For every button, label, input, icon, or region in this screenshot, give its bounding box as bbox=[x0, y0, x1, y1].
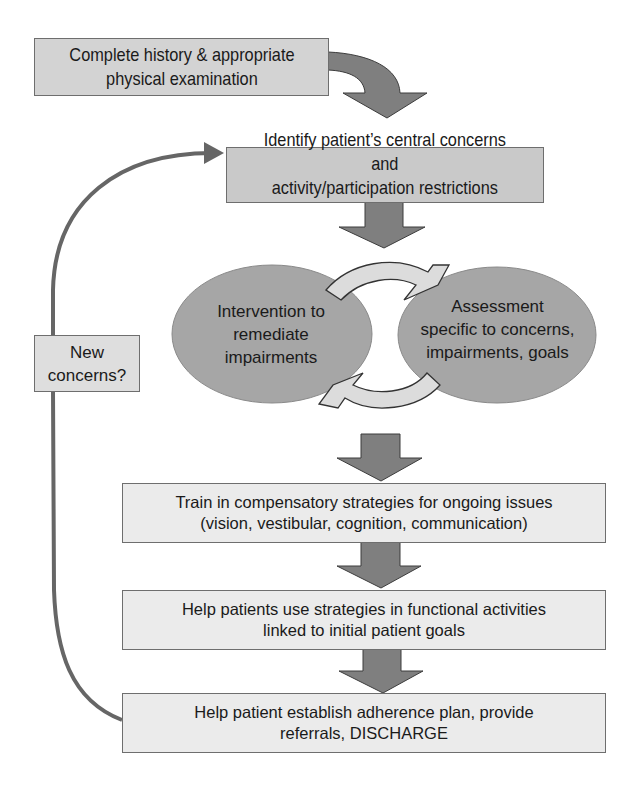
identify-concerns-box: Identify patient’s central concerns and … bbox=[226, 147, 544, 203]
discharge-box: Help patient establish adherence plan, p… bbox=[122, 693, 606, 753]
train-compensatory-line-1: Train in compensatory strategies for ong… bbox=[175, 492, 552, 513]
identify-concerns-line-2: and bbox=[264, 152, 506, 176]
discharge-line-1: Help patient establish adherence plan, p… bbox=[194, 702, 533, 723]
identify-concerns-line-1: Identify patient’s central concerns bbox=[264, 128, 506, 152]
train-compensatory-box: Train in compensatory strategies for ong… bbox=[122, 483, 606, 543]
diagram-canvas bbox=[0, 0, 643, 790]
train-compensatory-line-2: (vision, vestibular, cognition, communic… bbox=[200, 513, 527, 534]
feedback-arrow-head bbox=[204, 142, 224, 164]
assessment-line-3: impairments, goals bbox=[400, 341, 595, 364]
discharge-line-2: referrals, DISCHARGE bbox=[280, 723, 448, 744]
identify-concerns-line-3: activity/participation restrictions bbox=[264, 176, 506, 200]
assessment-line-2: specific to concerns, bbox=[400, 318, 595, 341]
down-arrow-4 bbox=[339, 649, 423, 693]
intervention-line-3: impairments bbox=[196, 346, 346, 369]
new-concerns-line-1: New bbox=[70, 341, 104, 364]
curved-block-arrow bbox=[328, 52, 427, 118]
intervention-line-1: Intervention to bbox=[196, 300, 346, 323]
down-arrow-2 bbox=[337, 434, 422, 481]
history-exam-box: Complete history & appropriate physical … bbox=[34, 38, 329, 96]
new-concerns-box: New concerns? bbox=[34, 335, 140, 392]
functional-activities-box: Help patients use strategies in function… bbox=[122, 590, 606, 650]
assessment-line-1: Assessment bbox=[400, 295, 595, 318]
functional-activities-line-1: Help patients use strategies in function… bbox=[182, 599, 546, 620]
intervention-label: Intervention to remediate impairments bbox=[196, 300, 346, 369]
down-arrow-1 bbox=[339, 202, 425, 248]
assessment-label: Assessment specific to concerns, impairm… bbox=[400, 295, 595, 364]
intervention-line-2: remediate bbox=[196, 323, 346, 346]
history-exam-line-2: physical examination bbox=[69, 67, 294, 91]
functional-activities-line-2: linked to initial patient goals bbox=[263, 620, 465, 641]
new-concerns-line-2: concerns? bbox=[48, 364, 126, 387]
history-exam-line-1: Complete history & appropriate bbox=[69, 43, 294, 67]
down-arrow-3 bbox=[337, 542, 421, 588]
